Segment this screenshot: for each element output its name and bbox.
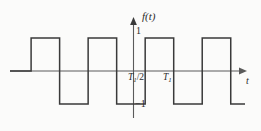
period-subscript: 1 xyxy=(168,76,171,83)
y-axis-arrowhead xyxy=(130,17,137,25)
y-tick-label-negative-one: −1 xyxy=(135,99,146,109)
y-tick-label-positive-one: 1 xyxy=(136,26,141,36)
waveform-plot xyxy=(0,0,261,131)
x-axis-arrowhead xyxy=(239,68,247,75)
y-axis-label-arg: (t) xyxy=(145,10,155,22)
square-wave-figure: f(t) t 1 −1 T1/2 T1 xyxy=(0,0,261,131)
x-axis-label: t xyxy=(246,76,249,86)
y-axis-label: f(t) xyxy=(142,11,155,22)
half-period-divisor: /2 xyxy=(137,72,144,82)
x-tick-label-period: T1 xyxy=(163,73,172,84)
x-tick-label-half-period: T1/2 xyxy=(128,73,144,84)
